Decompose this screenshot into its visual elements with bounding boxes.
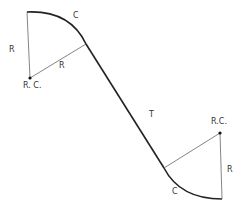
label-radius-top-vertical: R bbox=[9, 46, 15, 54]
center-point-bottom bbox=[218, 131, 221, 134]
reverse-curve-diagram bbox=[0, 0, 251, 209]
radius-bottom-vertical bbox=[220, 133, 222, 199]
tangent-line bbox=[86, 44, 164, 168]
label-center-top: R. C. bbox=[23, 82, 42, 90]
radius-top-vertical bbox=[27, 12, 30, 78]
radius-bottom-diagonal bbox=[164, 133, 220, 168]
radius-top-diagonal bbox=[30, 44, 86, 78]
label-curve-bottom: C bbox=[172, 188, 178, 196]
label-curve-top: C bbox=[73, 12, 79, 20]
label-center-bottom: R.C. bbox=[211, 118, 227, 126]
label-radius-bottom-vertical: R bbox=[227, 166, 233, 174]
label-tangent: T bbox=[149, 111, 154, 119]
center-point-top bbox=[28, 76, 31, 79]
label-radius-top-diagonal: R bbox=[59, 62, 65, 70]
